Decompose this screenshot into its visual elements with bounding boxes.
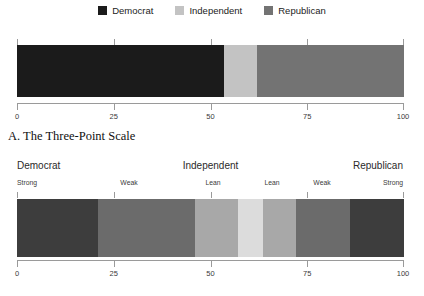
axis2-tick-25 [114, 261, 115, 267]
axis2-tick-top-50 [211, 192, 212, 198]
axis2-tick-0 [17, 261, 18, 267]
chart-seven-point-scale: 0 25 50 75 100 [0, 0, 424, 296]
axis2-tick-top-100 [403, 192, 404, 198]
axis2-tick-label-50: 50 [206, 270, 214, 278]
axis2-tick-top-25 [114, 192, 115, 198]
bar-segment-strong-republican[interactable] [350, 199, 404, 257]
axis2-tick-label-75: 75 [303, 270, 311, 278]
bar-segment-lean-democrat[interactable] [195, 199, 238, 257]
axis2-tick-top-0 [17, 192, 18, 198]
bar-segment-weak-democrat[interactable] [98, 199, 195, 257]
figure-root: Democrat Independent Republican [0, 0, 424, 296]
stacked-bar [17, 199, 404, 257]
axis2-tick-50 [211, 261, 212, 267]
axis2-tick-label-0: 0 [15, 270, 19, 278]
bar-segment-independent[interactable] [238, 199, 263, 257]
chart2-plot-area [17, 199, 404, 257]
axis2-tick-label-25: 25 [110, 270, 118, 278]
bar-segment-strong-democrat[interactable] [17, 199, 98, 257]
axis2-tick-label-100: 100 [397, 270, 410, 278]
bar-segment-lean-republican[interactable] [263, 199, 296, 257]
bar-segment-weak-republican[interactable] [296, 199, 350, 257]
axis2-tick-100 [403, 261, 404, 267]
axis2-tick-75 [307, 261, 308, 267]
axis2-tick-top-75 [307, 192, 308, 198]
